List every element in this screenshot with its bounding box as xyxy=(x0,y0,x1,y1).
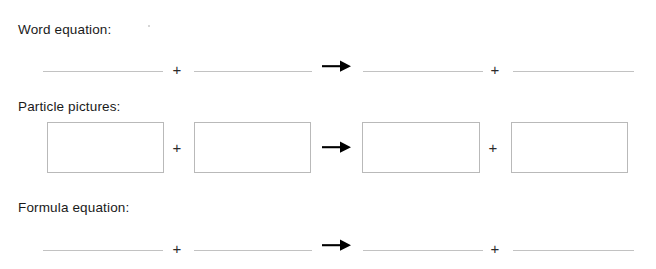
particle-box-1[interactable] xyxy=(47,122,164,173)
formula-equation-label: Formula equation: xyxy=(18,200,129,216)
word-equation-plus-2: + xyxy=(489,62,501,77)
formula-equation-blank-4[interactable] xyxy=(513,250,634,251)
particle-box-4[interactable] xyxy=(511,122,628,173)
formula-equation-blank-3[interactable] xyxy=(363,250,483,251)
worksheet-canvas: Word equation: + + Particle pictures: + … xyxy=(0,0,656,269)
word-equation-blank-4[interactable] xyxy=(513,71,634,72)
particle-pictures-plus-1: + xyxy=(171,140,183,155)
word-equation-blank-2[interactable] xyxy=(194,71,312,72)
formula-equation-arrow-icon xyxy=(322,238,352,252)
particle-box-2[interactable] xyxy=(194,122,311,173)
word-equation-label: Word equation: xyxy=(18,22,111,38)
word-equation-blank-1[interactable] xyxy=(43,71,163,72)
formula-equation-plus-1: + xyxy=(171,241,183,256)
word-equation-plus-1: + xyxy=(171,62,183,77)
formula-equation-plus-2: + xyxy=(489,241,501,256)
particle-box-3[interactable] xyxy=(362,122,480,173)
particle-pictures-label: Particle pictures: xyxy=(18,99,121,115)
word-equation-blank-3[interactable] xyxy=(363,71,483,72)
particle-pictures-arrow-icon xyxy=(322,140,352,154)
formula-equation-blank-2[interactable] xyxy=(194,250,312,251)
formula-equation-blank-1[interactable] xyxy=(43,250,163,251)
stray-speck-artifact xyxy=(148,25,150,27)
particle-pictures-plus-2: + xyxy=(487,140,499,155)
word-equation-arrow-icon xyxy=(322,59,352,73)
